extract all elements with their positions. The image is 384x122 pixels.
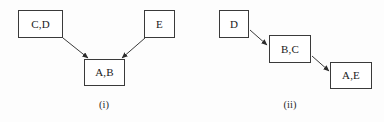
edge-e-to-ab bbox=[122, 38, 145, 58]
figure-canvas: C,DEA,BDB,CA,E (i)(ii) bbox=[0, 0, 384, 122]
edge-bc-to-ae bbox=[312, 56, 329, 71]
node-box-ae: A,E bbox=[330, 62, 372, 89]
node-box-bc: B,C bbox=[269, 35, 311, 63]
node-box-cd: C,D bbox=[18, 10, 63, 38]
diagram-caption-2: (ii) bbox=[270, 100, 310, 111]
diagram-caption-1: (i) bbox=[84, 100, 124, 111]
node-box-d: D bbox=[219, 10, 249, 38]
node-box-ab: A,B bbox=[84, 59, 125, 86]
edge-d-to-bc bbox=[250, 30, 267, 45]
node-box-e: E bbox=[144, 10, 175, 38]
edge-cd-to-ab bbox=[63, 38, 88, 58]
